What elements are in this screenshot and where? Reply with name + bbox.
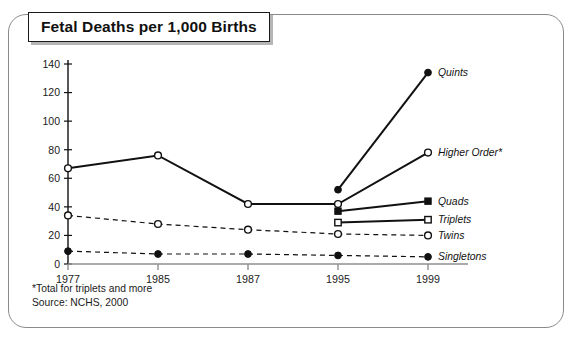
series-label-triplets: Triplets bbox=[438, 214, 471, 225]
y-axis-tick-label: 120 bbox=[42, 86, 60, 98]
x-axis-tick-label: 1995 bbox=[326, 273, 350, 285]
data-point-marker bbox=[245, 226, 252, 233]
y-axis-tick-label: 140 bbox=[42, 58, 60, 70]
chart-plot-area: 020406080100120140 19771985198719951999 … bbox=[0, 0, 578, 339]
x-axis-tick-label: 1987 bbox=[236, 273, 260, 285]
y-axis-tick-label: 40 bbox=[48, 201, 60, 213]
series-label-singletons: Singletons bbox=[438, 251, 487, 262]
series-label-higher-order: Higher Order* bbox=[438, 147, 503, 158]
data-point-marker bbox=[65, 248, 72, 255]
data-point-marker bbox=[155, 152, 162, 159]
y-axis-tick-label: 60 bbox=[48, 172, 60, 184]
page-title: Fetal Deaths per 1,000 Births bbox=[41, 18, 257, 35]
x-axis: 19771985198719951999 bbox=[56, 264, 468, 285]
y-axis-tick-label: 100 bbox=[42, 115, 60, 127]
series-lines bbox=[65, 69, 432, 260]
x-axis-tick-label: 1999 bbox=[416, 273, 440, 285]
data-point-marker bbox=[245, 201, 252, 208]
series-label-quads: Quads bbox=[438, 196, 469, 207]
series-label-twins: Twins bbox=[438, 230, 464, 241]
data-point-marker bbox=[425, 149, 432, 156]
data-point-marker bbox=[425, 217, 431, 223]
data-point-marker bbox=[245, 251, 252, 258]
series-line bbox=[338, 201, 428, 211]
data-point-marker bbox=[425, 232, 432, 239]
y-axis-tick-label: 80 bbox=[48, 144, 60, 156]
x-axis-tick-label: 1977 bbox=[56, 273, 80, 285]
data-point-marker bbox=[335, 186, 342, 193]
series-line bbox=[338, 73, 428, 190]
chart-title-box: Fetal Deaths per 1,000 Births bbox=[28, 12, 270, 42]
data-point-marker bbox=[335, 201, 342, 208]
y-axis: 020406080100120140 bbox=[42, 58, 72, 270]
data-point-marker bbox=[155, 221, 162, 228]
y-axis-tick-label: 0 bbox=[54, 258, 60, 270]
y-axis-tick-label: 20 bbox=[48, 229, 60, 241]
data-point-marker bbox=[155, 251, 162, 258]
series-line bbox=[68, 153, 428, 204]
data-point-marker bbox=[335, 252, 342, 259]
x-axis-tick-label: 1985 bbox=[146, 273, 170, 285]
data-point-marker bbox=[335, 208, 341, 214]
data-point-marker bbox=[425, 69, 432, 76]
data-point-marker bbox=[65, 165, 72, 172]
data-point-marker bbox=[425, 253, 432, 260]
series-line bbox=[338, 220, 428, 223]
series-label-quints: Quints bbox=[438, 67, 468, 78]
data-point-marker bbox=[425, 198, 431, 204]
series-labels: QuintsHigher Order*QuadsTripletsTwinsSin… bbox=[438, 67, 503, 262]
data-point-marker bbox=[65, 212, 72, 219]
data-point-marker bbox=[335, 231, 342, 238]
data-point-marker bbox=[335, 219, 341, 225]
line-chart-svg: 020406080100120140 19771985198719951999 … bbox=[0, 0, 578, 339]
